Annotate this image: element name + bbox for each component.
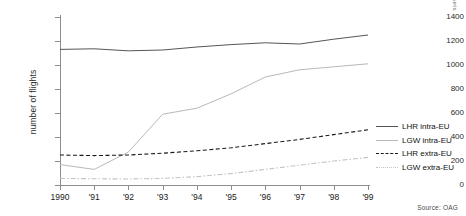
x-tick <box>60 185 61 190</box>
y-tick-label: 600 <box>430 108 464 117</box>
y-tick-label: 0 <box>430 180 464 189</box>
y-tick-label: 1200 <box>430 36 464 45</box>
legend-swatch-icon <box>376 167 398 168</box>
y-tick <box>55 41 61 42</box>
legend-item[interactable]: LHR extra-EU <box>376 147 466 161</box>
source-label: Source: OAG <box>417 204 458 211</box>
series-line <box>60 157 368 179</box>
y-tick-label: 1000 <box>430 60 464 69</box>
clipped-title-strip <box>60 0 390 9</box>
legend-label: LGW intra-EU <box>402 134 452 147</box>
x-tick <box>265 185 266 190</box>
corner-mark-label: sets <box>452 0 458 11</box>
x-tick <box>368 185 369 190</box>
x-axis-line <box>60 185 370 186</box>
x-tick <box>334 185 335 190</box>
legend-swatch-icon <box>376 153 398 154</box>
x-tick <box>163 185 164 190</box>
legend-item[interactable]: LGW extra-EU <box>376 161 466 175</box>
legend-label: LHR extra-EU <box>402 147 452 160</box>
legend-swatch-icon <box>376 126 398 127</box>
legend-item[interactable]: LGW intra-EU <box>376 134 466 148</box>
y-tick <box>55 65 61 66</box>
chart-legend: LHR intra-EULGW intra-EULHR extra-EULGW … <box>376 120 466 174</box>
y-tick <box>55 161 61 162</box>
legend-item[interactable]: LHR intra-EU <box>376 120 466 134</box>
x-tick <box>197 185 198 190</box>
y-tick <box>55 137 61 138</box>
y-tick-label: 1400 <box>430 12 464 21</box>
y-axis-title: number of flights <box>28 42 38 162</box>
series-line <box>60 130 368 156</box>
legend-label: LHR intra-EU <box>402 120 450 133</box>
x-tick <box>300 185 301 190</box>
x-tick-label: '99 <box>348 192 388 202</box>
series-line <box>60 35 368 51</box>
y-tick-label: 800 <box>430 84 464 93</box>
y-tick <box>55 89 61 90</box>
y-tick <box>55 113 61 114</box>
legend-swatch-icon <box>376 140 398 141</box>
x-tick <box>94 185 95 190</box>
x-tick <box>231 185 232 190</box>
series-line <box>60 64 368 170</box>
legend-label: LGW extra-EU <box>402 161 454 174</box>
y-tick <box>55 17 61 18</box>
x-tick <box>128 185 129 190</box>
